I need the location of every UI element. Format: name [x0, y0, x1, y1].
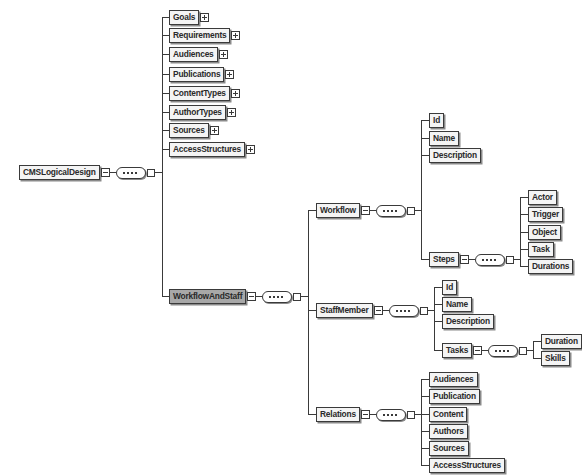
node-content[interactable]: Content [429, 407, 467, 422]
tree-spine [421, 120, 422, 260]
node-trigger[interactable]: Trigger [528, 207, 563, 222]
node-id[interactable]: Id [442, 280, 457, 295]
node-durations[interactable]: Durations [528, 259, 573, 274]
tree-spine [308, 210, 309, 415]
tree-branch [162, 130, 169, 131]
collapse-icon[interactable] [361, 206, 370, 215]
tree-branch [434, 321, 442, 322]
node-object[interactable]: Object [528, 225, 561, 240]
node-workflow-and-staff[interactable]: WorkflowAndStaff [169, 289, 246, 304]
tree-branch [520, 197, 528, 198]
node-name[interactable]: Name [429, 131, 459, 146]
expand-icon[interactable] [210, 126, 219, 135]
tree-branch [421, 379, 429, 380]
tree-branch [421, 138, 429, 139]
tree-branch [162, 35, 169, 36]
tree-branch [520, 232, 528, 233]
node-duration[interactable]: Duration [541, 334, 582, 349]
tree-branch [421, 396, 429, 397]
tree-branch [421, 155, 429, 156]
node-content-types[interactable]: ContentTypes [169, 86, 230, 101]
expand-icon[interactable] [231, 89, 240, 98]
collapse-icon[interactable] [460, 255, 469, 264]
collapse-icon[interactable] [407, 411, 415, 419]
sequence-compositor-icon[interactable] [475, 254, 505, 266]
node-task[interactable]: Task [528, 242, 554, 257]
tree-branch [421, 120, 429, 121]
sequence-compositor-icon[interactable] [262, 291, 292, 303]
collapse-icon[interactable] [247, 292, 256, 301]
node-sources[interactable]: Sources [169, 123, 209, 138]
node-workflow[interactable]: Workflow [316, 203, 360, 218]
collapse-icon[interactable] [374, 306, 383, 315]
expand-icon[interactable] [225, 70, 234, 79]
node-skills[interactable]: Skills [541, 351, 570, 366]
tree-spine [162, 17, 163, 297]
node-staff-member[interactable]: StaffMember [316, 303, 373, 318]
node-publications[interactable]: Publications [169, 67, 224, 82]
node-sources[interactable]: Sources [429, 441, 469, 456]
node-authors[interactable]: Authors [429, 424, 468, 439]
expand-icon[interactable] [200, 13, 209, 22]
node-name[interactable]: Name [442, 297, 472, 312]
tree-branch [308, 414, 316, 415]
tree-branch [162, 93, 169, 94]
collapse-icon[interactable] [473, 346, 482, 355]
tree-branch [533, 341, 541, 342]
node-steps[interactable]: Steps [429, 252, 459, 267]
expand-icon[interactable] [227, 108, 236, 117]
node-actor[interactable]: Actor [528, 190, 557, 205]
node-description[interactable]: Description [442, 314, 494, 329]
node-author-types[interactable]: AuthorTypes [169, 105, 226, 120]
node-requirements[interactable]: Requirements [169, 28, 230, 43]
tree-branch [533, 358, 541, 359]
expand-icon[interactable] [246, 145, 255, 154]
node-description[interactable]: Description [429, 148, 481, 163]
node-cmslogical-design[interactable]: CMSLogicalDesign [19, 165, 100, 180]
tree-branch [421, 414, 429, 415]
collapse-icon[interactable] [519, 347, 527, 355]
node-audiences[interactable]: Audiences [429, 372, 478, 387]
sequence-compositor-icon[interactable] [116, 167, 146, 179]
tree-branch [434, 350, 442, 351]
node-id[interactable]: Id [429, 113, 444, 128]
tree-branch [162, 296, 169, 297]
tree-spine [434, 287, 435, 351]
expand-icon[interactable] [231, 31, 240, 40]
tree-branch [308, 210, 316, 211]
node-tasks[interactable]: Tasks [442, 343, 472, 358]
tree-branch [162, 54, 169, 55]
collapse-icon[interactable] [420, 307, 428, 315]
connector-line [301, 296, 308, 297]
tree-branch [162, 74, 169, 75]
node-audiences[interactable]: Audiences [169, 47, 218, 62]
node-goals[interactable]: Goals [169, 10, 199, 25]
collapse-icon[interactable] [361, 410, 370, 419]
tree-branch [421, 465, 429, 466]
tree-spine [533, 341, 534, 359]
tree-branch [421, 259, 429, 260]
sequence-compositor-icon[interactable] [389, 305, 419, 317]
node-publication[interactable]: Publication [429, 389, 480, 404]
collapse-icon[interactable] [506, 256, 514, 264]
collapse-icon[interactable] [101, 168, 110, 177]
tree-branch [421, 431, 429, 432]
collapse-icon[interactable] [407, 207, 415, 215]
tree-spine [421, 379, 422, 466]
tree-branch [308, 310, 316, 311]
tree-branch [162, 17, 169, 18]
node-relations[interactable]: Relations [316, 407, 360, 422]
node-access-structures[interactable]: AccessStructures [169, 142, 245, 157]
tree-branch [162, 149, 169, 150]
expand-icon[interactable] [219, 50, 228, 59]
tree-branch [434, 304, 442, 305]
collapse-icon[interactable] [293, 293, 301, 301]
node-access-structures[interactable]: AccessStructures [429, 458, 505, 473]
sequence-compositor-icon[interactable] [376, 205, 406, 217]
collapse-icon[interactable] [147, 169, 155, 177]
connector-line [155, 172, 162, 173]
sequence-compositor-icon[interactable] [488, 345, 518, 357]
tree-branch [434, 287, 442, 288]
sequence-compositor-icon[interactable] [376, 409, 406, 421]
